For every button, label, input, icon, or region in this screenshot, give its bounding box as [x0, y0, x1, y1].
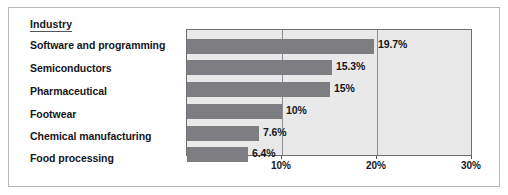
- bar-semiconductors: [187, 60, 332, 75]
- category-label-column: Industry Software and programming Semico…: [30, 18, 195, 168]
- x-tick-label-10: 10%: [271, 160, 291, 172]
- category-label-pharmaceutical: Pharmaceutical: [30, 85, 107, 97]
- bar-chemical-manufacturing: [187, 126, 259, 141]
- category-label-food-processing: Food processing: [30, 152, 114, 164]
- x-tick-mark-30: [471, 156, 472, 159]
- plot-area: 19.7% 15.3% 15% 10% 7.6% 6.4%: [186, 29, 472, 156]
- value-label-footwear: 10%: [286, 104, 307, 116]
- x-tick-mark-10: [281, 156, 282, 159]
- category-label-footwear: Footwear: [30, 108, 76, 120]
- bar-footwear: [187, 104, 282, 119]
- category-label-chemical-manufacturing: Chemical manufacturing: [30, 130, 151, 142]
- x-tick-label-20: 20%: [366, 160, 386, 172]
- x-tick-label-30: 30%: [461, 160, 481, 172]
- bar-software-and-programming: [187, 39, 374, 54]
- chart-figure: Industry Software and programming Semico…: [8, 7, 500, 187]
- bar-pharmaceutical: [187, 82, 330, 97]
- value-label-pharmaceutical: 15%: [334, 82, 355, 94]
- value-label-semiconductors: 15.3%: [336, 60, 365, 72]
- x-tick-mark-20: [376, 156, 377, 159]
- x-axis: 10% 20% 30%: [186, 156, 472, 178]
- value-label-chemical-manufacturing: 7.6%: [263, 126, 287, 138]
- value-label-software-and-programming: 19.7%: [378, 38, 407, 50]
- category-label-software-and-programming: Software and programming: [30, 39, 165, 51]
- category-label-semiconductors: Semiconductors: [30, 62, 112, 74]
- legend-header-industry: Industry: [30, 18, 72, 32]
